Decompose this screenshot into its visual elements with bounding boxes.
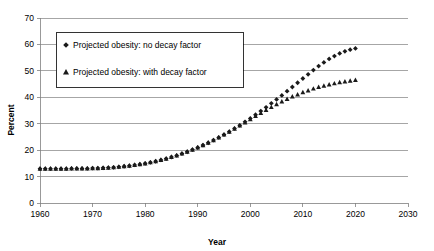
y-tick-labels: 010203040506070 <box>25 13 35 208</box>
data-point <box>274 97 279 102</box>
data-point <box>321 83 326 87</box>
y-tick-label-70: 70 <box>25 13 35 23</box>
legend-label-no-decay: Projected obesity: no decay factor <box>73 40 201 50</box>
y-axis-title: Percent <box>6 104 16 135</box>
data-point <box>327 57 332 62</box>
x-tick-label-2030: 2030 <box>399 209 418 219</box>
data-point <box>332 54 337 59</box>
x-tick-label-1980: 1980 <box>136 209 155 219</box>
data-point <box>300 76 305 81</box>
data-point <box>327 82 332 86</box>
data-point <box>321 60 326 65</box>
y-tick-label-60: 60 <box>25 39 35 49</box>
y-tick-label-0: 0 <box>29 198 34 208</box>
x-tick-label-2000: 2000 <box>241 209 260 219</box>
chart-canvas: 010203040506070 196019701980199020002010… <box>0 0 434 251</box>
data-point <box>300 90 305 94</box>
data-point <box>343 79 348 83</box>
data-point <box>295 92 300 96</box>
x-tick-label-1960: 1960 <box>31 209 50 219</box>
x-tick-label-1970: 1970 <box>83 209 102 219</box>
data-point <box>279 99 284 103</box>
x-tick-label-1990: 1990 <box>188 209 207 219</box>
data-point <box>343 49 348 54</box>
data-point <box>337 51 342 56</box>
y-tick-label-50: 50 <box>25 66 35 76</box>
data-point <box>332 81 337 85</box>
legend-label-with-decay: Projected obesity: with decay factor <box>73 67 207 77</box>
y-tick-label-10: 10 <box>25 172 35 182</box>
y-tick-label-20: 20 <box>25 145 35 155</box>
data-point <box>348 47 353 52</box>
x-tick-label-2010: 2010 <box>293 209 312 219</box>
x-axis-group <box>40 203 408 207</box>
data-point <box>337 80 342 84</box>
data-point <box>311 68 316 73</box>
data-point <box>290 85 295 90</box>
obesity-projection-chart: 010203040506070 196019701980199020002010… <box>0 0 434 251</box>
x-tick-labels: 19601970198019902000201020202030 <box>31 209 418 219</box>
data-point <box>353 46 358 51</box>
data-point <box>269 105 274 109</box>
data-point <box>306 72 311 77</box>
data-point <box>274 102 279 106</box>
data-point <box>306 88 311 92</box>
data-point <box>316 85 321 89</box>
y-axis-group <box>37 18 40 203</box>
data-point <box>295 80 300 85</box>
data-point <box>311 86 316 90</box>
x-tick-label-2020: 2020 <box>346 209 365 219</box>
data-point <box>264 108 269 112</box>
data-point <box>316 64 321 69</box>
legend: Projected obesity: no decay factorProjec… <box>56 32 243 87</box>
data-point <box>348 78 353 82</box>
x-axis-title: Year <box>208 237 227 247</box>
data-point <box>285 89 290 94</box>
y-tick-label-30: 30 <box>25 119 35 129</box>
y-tick-label-40: 40 <box>25 92 35 102</box>
data-point <box>290 94 295 98</box>
data-point <box>353 77 358 81</box>
